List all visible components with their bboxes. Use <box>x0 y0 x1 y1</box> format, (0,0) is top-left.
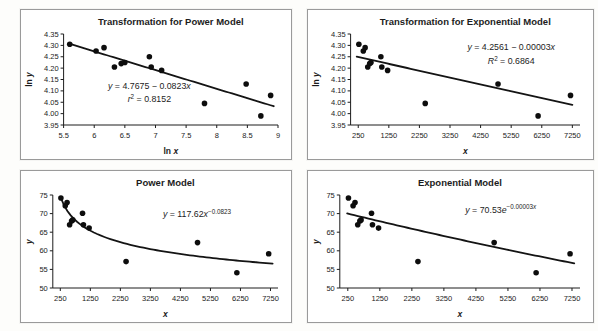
x-tick-label: 3250 <box>436 294 453 303</box>
data-point <box>58 195 64 201</box>
data-point <box>352 200 358 206</box>
trend-line <box>357 57 573 105</box>
equation-text: y = 4.2561 − 0.00003x <box>466 42 555 52</box>
data-point <box>202 101 208 107</box>
x-tick-label: 7250 <box>262 294 279 303</box>
data-point <box>123 259 129 265</box>
data-point <box>80 210 86 216</box>
data-point <box>533 270 539 276</box>
equation-text: y = 117.62x−0.0823 <box>162 208 232 219</box>
x-tick-label: 250 <box>54 294 67 303</box>
trend-line <box>61 198 273 264</box>
exponential-transformation-chart: 25012502250325042505250625072503.954.004… <box>308 10 593 159</box>
x-tick-label: 1250 <box>82 294 99 303</box>
y-tick-label: 50 <box>326 284 334 293</box>
data-point <box>415 259 421 265</box>
panel-exponential-transformation: 25012502250325042505250625072503.954.004… <box>307 9 594 160</box>
x-tick-label: 6250 <box>532 294 549 303</box>
data-point <box>370 222 376 228</box>
data-point <box>93 48 99 54</box>
charts-grid: 5.566.577.588.593.954.004.054.104.154.20… <box>0 0 598 323</box>
data-point <box>101 45 107 51</box>
x-axis-label: x <box>457 309 464 319</box>
y-tick-label: 70 <box>39 209 47 218</box>
y-tick-label: 65 <box>39 228 47 237</box>
equation-text: y = 70.53e−0.00003x <box>464 203 537 214</box>
chart-title: Exponential Model <box>418 177 502 188</box>
x-tick-label: 6.5 <box>120 131 130 140</box>
y-tick-label: 50 <box>39 284 47 293</box>
y-tick-label: 4.10 <box>44 86 59 95</box>
y-tick-label: 4.20 <box>44 64 59 73</box>
x-tick-label: 7.5 <box>181 131 191 140</box>
y-axis-label: ln y <box>311 71 321 87</box>
data-point <box>368 60 374 66</box>
y-tick-label: 4.35 <box>331 30 346 39</box>
y-tick-label: 70 <box>326 209 334 218</box>
panel-power-model: 2501250225032504250525062507250505560657… <box>20 170 292 323</box>
data-point <box>243 81 249 87</box>
y-tick-label: 4.00 <box>331 109 346 118</box>
panel-power-transformation: 5.566.577.588.593.954.004.054.104.154.20… <box>20 9 292 160</box>
x-tick-label: 4250 <box>468 294 485 303</box>
data-point <box>195 240 201 246</box>
x-axis-label: x <box>162 309 169 319</box>
power-transformation-chart: 5.566.577.588.593.954.004.054.104.154.20… <box>21 10 291 159</box>
equation-text: R2 = 0.6864 <box>488 55 535 66</box>
data-point <box>86 225 92 231</box>
x-tick-label: 9 <box>276 131 280 140</box>
x-tick-label: 8 <box>215 131 219 140</box>
trend-line <box>347 213 574 263</box>
panel-exponential-model: 2501250225032504250525062507250505560657… <box>307 170 594 323</box>
data-point <box>567 251 573 257</box>
data-point <box>148 64 154 70</box>
exponential-model-chart: 2501250225032504250525062507250505560657… <box>308 171 593 322</box>
x-tick-label: 7250 <box>564 294 581 303</box>
y-axis-label: y <box>24 238 34 245</box>
x-tick-label: 1250 <box>380 131 397 140</box>
x-tick-label: 6250 <box>232 294 249 303</box>
data-point <box>362 45 368 51</box>
data-point <box>147 54 153 60</box>
y-tick-label: 4.25 <box>331 52 346 61</box>
chart-title: Power Model <box>136 177 195 188</box>
data-point <box>495 81 501 87</box>
data-point <box>356 41 362 47</box>
x-tick-label: 4250 <box>472 131 489 140</box>
y-tick-label: 4.15 <box>44 75 59 84</box>
data-point <box>376 225 382 231</box>
x-tick-label: 6250 <box>533 131 550 140</box>
y-tick-label: 4.05 <box>331 98 346 107</box>
data-point <box>379 64 385 70</box>
x-tick-label: 2250 <box>411 131 428 140</box>
x-axis-label: ln x <box>163 146 179 156</box>
x-tick-label: 2250 <box>112 294 129 303</box>
equation-text: r2 = 0.8152 <box>128 93 171 104</box>
y-tick-label: 4.10 <box>331 86 346 95</box>
data-point <box>535 113 541 119</box>
y-tick-label: 4.35 <box>44 30 59 39</box>
data-point <box>568 93 574 99</box>
y-tick-label: 4.20 <box>331 64 346 73</box>
data-point <box>67 41 73 47</box>
equation-text: y = 4.7675 − 0.0823x <box>107 81 191 91</box>
chart-title: Transformation for Power Model <box>98 16 244 27</box>
x-tick-label: 5250 <box>503 131 520 140</box>
data-point <box>81 222 87 228</box>
x-tick-label: 7 <box>153 131 157 140</box>
data-point <box>70 217 76 223</box>
x-tick-label: 5250 <box>202 294 219 303</box>
x-tick-label: 250 <box>342 294 355 303</box>
data-point <box>422 101 428 107</box>
data-point <box>234 270 240 276</box>
data-point <box>491 240 497 246</box>
data-point <box>266 251 272 257</box>
y-tick-label: 75 <box>39 191 47 200</box>
data-point <box>122 60 128 66</box>
y-axis-label: y <box>311 238 321 245</box>
y-tick-label: 3.95 <box>331 121 346 130</box>
x-tick-label: 250 <box>352 131 365 140</box>
y-tick-label: 4.00 <box>44 109 59 118</box>
y-tick-label: 4.25 <box>44 52 59 61</box>
x-tick-label: 3250 <box>142 294 159 303</box>
